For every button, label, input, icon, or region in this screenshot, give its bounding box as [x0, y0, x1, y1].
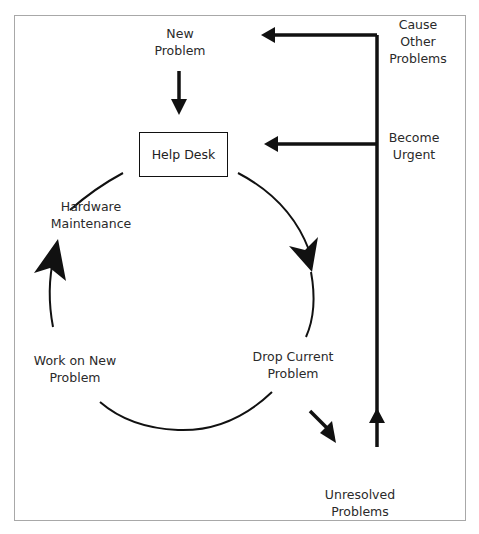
label-line: Problem	[20, 369, 130, 386]
arrow-left-icon	[264, 136, 278, 152]
label-line: Maintenance	[36, 215, 146, 232]
label-line: Problem	[150, 42, 210, 59]
label-line: Work on New	[20, 352, 130, 369]
label-line: Problems	[380, 50, 456, 67]
arrow-up-icon	[369, 408, 385, 423]
node-help-desk: Help Desk	[139, 132, 228, 177]
label-line: New	[150, 25, 210, 42]
node-work-on-new-problem: Work on New Problem	[20, 352, 130, 386]
label-line: Cause	[380, 16, 456, 33]
label-line: Problems	[314, 503, 406, 520]
node-hardware-maintenance: Hardware Maintenance	[36, 198, 146, 232]
drop-to-unresolved-line	[310, 411, 327, 428]
diagram-connectors	[0, 0, 479, 534]
node-unresolved-problems: Unresolved Problems	[314, 486, 406, 520]
arrow-down-icon	[171, 99, 187, 115]
label-line: Drop Current	[237, 348, 349, 365]
label-line: Urgent	[380, 146, 448, 163]
label-line: Become	[380, 129, 448, 146]
label-line: Other	[380, 33, 456, 50]
label-line: Unresolved	[314, 486, 406, 503]
node-cause-other-problems: Cause Other Problems	[380, 16, 456, 67]
node-become-urgent: Become Urgent	[380, 129, 448, 163]
node-drop-current-problem: Drop Current Problem	[237, 348, 349, 382]
label-line: Problem	[237, 365, 349, 382]
help-desk-label: Help Desk	[152, 147, 216, 162]
label-line: Hardware	[36, 198, 146, 215]
arrow-left-icon	[261, 27, 275, 43]
arc-bottom	[100, 392, 272, 430]
node-new-problem: New Problem	[150, 25, 210, 59]
arc-top-right	[238, 173, 309, 250]
arrow-down-icon	[289, 237, 318, 272]
arc-right	[306, 272, 314, 337]
